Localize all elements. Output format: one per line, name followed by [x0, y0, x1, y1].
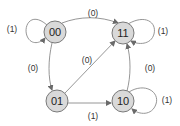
edge-01-to-11	[65, 41, 115, 93]
state-node-11: 11	[112, 22, 134, 44]
state-node-01: 01	[46, 90, 68, 112]
label-00-to-01: (0)	[28, 63, 39, 73]
label-01-to-11: (0)	[82, 55, 93, 65]
state-label-00: 00	[49, 26, 61, 38]
label-11-self: (1)	[158, 26, 169, 36]
state-node-10: 10	[112, 90, 134, 112]
edge-00-to-01	[49, 43, 52, 90]
label-01-to-10: (1)	[88, 111, 99, 121]
label-00-to-11: (0)	[88, 8, 99, 18]
state-label-01: 01	[51, 95, 63, 107]
state-diagram: 00 11 01 10 (1) (0) (0) (0) (1) (0) (1) …	[0, 0, 180, 126]
state-label-10: 10	[117, 95, 129, 107]
edge-10-to-11	[127, 44, 130, 91]
label-00-self: (1)	[7, 24, 18, 34]
label-10-self: (1)	[162, 95, 173, 105]
edge-00-to-11	[62, 18, 118, 23]
state-node-00: 00	[44, 21, 66, 43]
label-10-to-11: (0)	[145, 63, 156, 73]
state-label-11: 11	[117, 27, 128, 39]
